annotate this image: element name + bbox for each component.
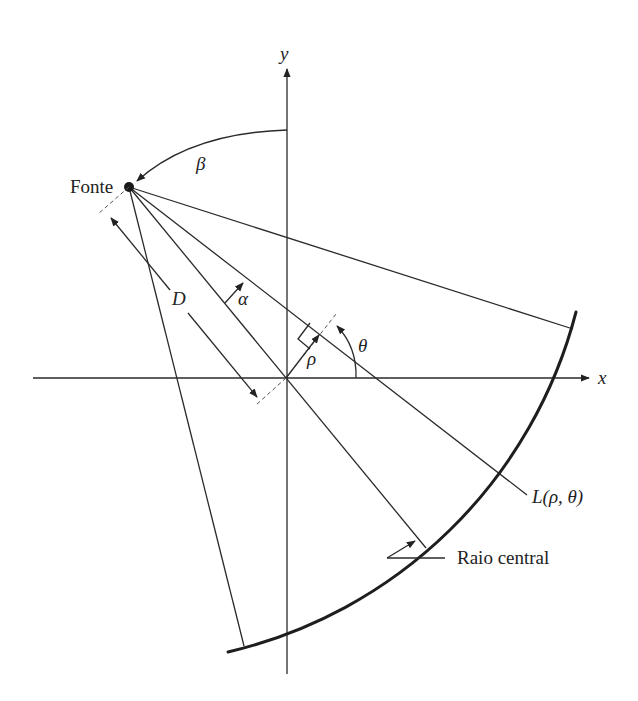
beta-label: β <box>195 153 206 174</box>
ray-upper <box>129 187 573 329</box>
alpha-label: α <box>238 288 249 309</box>
theta-arc <box>337 326 356 378</box>
d-arrow-up <box>111 218 170 290</box>
ray-lower <box>129 187 244 646</box>
ray-line-L <box>129 187 527 495</box>
distance-label: D <box>171 288 186 309</box>
central-ray-pointer-arrow <box>387 541 415 558</box>
theta-label: θ <box>358 335 367 356</box>
central-ray <box>129 187 426 548</box>
x-axis-label: x <box>597 367 607 388</box>
d-arrow-down <box>188 313 257 397</box>
y-axis-label: y <box>278 43 289 64</box>
fan-beam-diagram: x y β Fonte D α ρ θ L(ρ, θ) Raio central <box>0 0 638 701</box>
d-dash-origin <box>256 378 286 405</box>
detector-arc <box>228 312 576 652</box>
source-label: Fonte <box>70 176 113 197</box>
central-ray-label: Raio central <box>457 547 549 568</box>
right-angle-marker <box>298 323 310 349</box>
line-label: L(ρ, θ) <box>531 486 583 508</box>
beta-arc <box>137 130 287 181</box>
rho-label: ρ <box>306 348 316 369</box>
